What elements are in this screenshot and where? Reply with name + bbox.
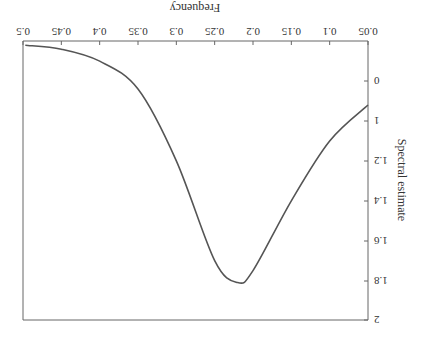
x-tick-label: 0.35 xyxy=(128,26,148,38)
y-tick-label: 0 xyxy=(374,75,380,87)
x-tick-label: 0.3 xyxy=(169,26,183,38)
plot-frame xyxy=(23,41,368,320)
y-tick-label: 1.2 xyxy=(374,155,388,167)
x-tick-label: 0.1 xyxy=(323,26,337,38)
x-tick-label: 0.25 xyxy=(205,26,225,38)
x-tick-label: 0.15 xyxy=(281,26,301,38)
x-tick-label: 0.05 xyxy=(358,26,378,38)
y-axis-title: Spectral estimate xyxy=(395,139,409,221)
x-tick-label: 0.45 xyxy=(51,26,71,38)
y-tick-label: 1.8 xyxy=(374,275,388,287)
x-tick-label: 0.2 xyxy=(246,26,260,38)
y-tick-label: 1.6 xyxy=(374,235,388,247)
y-tick-label: 2 xyxy=(374,314,380,326)
spectral-chart: 0.050.10.150.20.250.30.350.40.450.5 011.… xyxy=(0,0,422,338)
x-axis-ticks: 0.050.10.150.20.250.30.350.40.450.5 xyxy=(16,26,378,45)
x-axis-title: Frequency xyxy=(170,1,221,15)
x-tick-label: 0.5 xyxy=(16,26,30,38)
spectral-curve xyxy=(25,45,368,283)
y-tick-label: 1.4 xyxy=(374,195,388,207)
x-tick-label: 0.4 xyxy=(92,26,106,38)
y-tick-label: 1 xyxy=(374,115,380,127)
